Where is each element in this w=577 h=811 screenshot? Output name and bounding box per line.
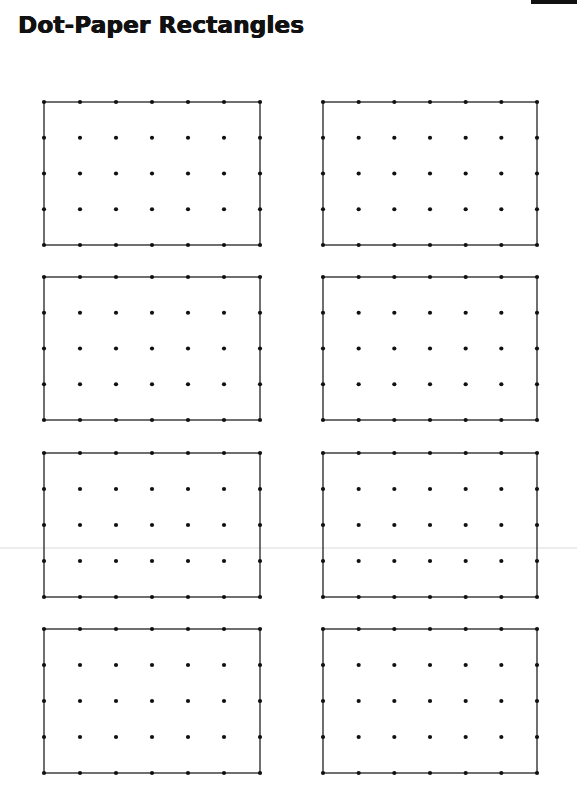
grid-dot <box>258 559 262 563</box>
grid-dot <box>258 418 262 422</box>
grid-dot <box>357 487 361 491</box>
grid-dot <box>535 382 539 386</box>
grid-dot <box>222 595 226 599</box>
grid-dot <box>499 699 503 703</box>
grid-dot <box>222 559 226 563</box>
grid-dot <box>186 243 190 247</box>
corner-bar <box>531 0 577 4</box>
grid-dot <box>357 243 361 247</box>
grid-dot <box>392 627 396 631</box>
grid-dot <box>321 275 325 279</box>
grid-dot <box>392 771 396 775</box>
grid-dot <box>42 243 46 247</box>
grid-dot <box>428 311 432 315</box>
grid-dot <box>464 451 468 455</box>
grid-dot <box>357 418 361 422</box>
grid-dot <box>150 595 154 599</box>
grid-dot <box>535 559 539 563</box>
grid-dot <box>392 487 396 491</box>
grid-dot <box>392 382 396 386</box>
grid-dot <box>150 451 154 455</box>
grid-dot <box>392 559 396 563</box>
grid-dot <box>428 346 432 350</box>
grid-dot <box>186 663 190 667</box>
grid-dot <box>42 735 46 739</box>
grid-dot <box>392 100 396 104</box>
grid-dot <box>222 207 226 211</box>
grid-dot <box>321 699 325 703</box>
grid-dot <box>499 275 503 279</box>
grid-dot <box>186 207 190 211</box>
dot-paper-rectangle-8 <box>323 629 537 773</box>
grid-dot <box>42 275 46 279</box>
grid-dot <box>186 595 190 599</box>
grid-dot <box>499 771 503 775</box>
grid-dot <box>499 418 503 422</box>
grid-dot <box>42 595 46 599</box>
grid-dot <box>535 346 539 350</box>
grid-dot <box>535 771 539 775</box>
grid-dot <box>114 171 118 175</box>
grid-dot <box>321 418 325 422</box>
grid-dot <box>428 136 432 140</box>
grid-dot <box>150 346 154 350</box>
grid-dot <box>321 559 325 563</box>
grid-dot <box>392 699 396 703</box>
grid-dot <box>321 451 325 455</box>
grid-dot <box>150 275 154 279</box>
grid-dot <box>321 382 325 386</box>
grid-dot <box>114 136 118 140</box>
grid-dot <box>150 136 154 140</box>
dot-paper-rectangle-7 <box>44 629 260 773</box>
grid-dot <box>150 243 154 247</box>
grid-dot <box>321 595 325 599</box>
grid-dot <box>428 559 432 563</box>
grid-dot <box>499 207 503 211</box>
grid-dot <box>258 627 262 631</box>
grid-dot <box>186 451 190 455</box>
grid-dot <box>357 311 361 315</box>
grid-dot <box>258 382 262 386</box>
grid-dot <box>186 346 190 350</box>
grid-dot <box>321 346 325 350</box>
grid-dot <box>78 487 82 491</box>
grid-dot <box>499 311 503 315</box>
grid-dot <box>258 100 262 104</box>
grid-dot <box>258 136 262 140</box>
grid-dot <box>258 663 262 667</box>
grid-dot <box>150 663 154 667</box>
grid-dot <box>499 487 503 491</box>
grid-dot <box>464 487 468 491</box>
grid-dot <box>258 735 262 739</box>
grid-dot <box>428 100 432 104</box>
grid-dot <box>114 559 118 563</box>
grid-dot <box>150 735 154 739</box>
grid-dot <box>186 487 190 491</box>
grid-dot <box>357 451 361 455</box>
grid-dot <box>78 663 82 667</box>
dot-paper-rectangle-3 <box>44 277 260 420</box>
grid-dot <box>392 311 396 315</box>
grid-dot <box>78 311 82 315</box>
grid-dot <box>321 136 325 140</box>
grid-dot <box>222 382 226 386</box>
grid-dot <box>114 487 118 491</box>
grid-dot <box>357 207 361 211</box>
grid-dot <box>42 207 46 211</box>
grid-dot <box>114 207 118 211</box>
grid-dot <box>464 627 468 631</box>
grid-dot <box>186 275 190 279</box>
grid-dot <box>78 346 82 350</box>
grid-dot <box>78 627 82 631</box>
grid-dot <box>499 523 503 527</box>
grid-dot <box>535 136 539 140</box>
grid-dot <box>186 771 190 775</box>
grid-dot <box>78 559 82 563</box>
grid-dot <box>428 663 432 667</box>
grid-dot <box>392 595 396 599</box>
grid-dot <box>357 523 361 527</box>
grid-dot <box>499 451 503 455</box>
grid-dot <box>392 735 396 739</box>
grid-dot <box>258 346 262 350</box>
grid-dot <box>357 771 361 775</box>
